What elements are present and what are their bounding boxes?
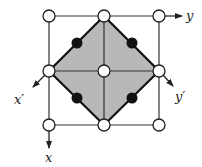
y-axis-label: y	[185, 8, 194, 23]
x-axis-label: x	[45, 150, 53, 165]
diagram-canvas: y x x′ y′	[0, 0, 202, 167]
filled-site	[72, 93, 83, 104]
open-site	[153, 10, 165, 22]
x-prime-axis-arrow	[33, 75, 45, 87]
open-site	[153, 65, 165, 77]
y-prime-axis-arrow	[163, 75, 173, 86]
open-site	[98, 65, 110, 77]
filled-site	[127, 93, 138, 104]
open-site	[153, 119, 165, 131]
filled-site	[72, 38, 83, 49]
x-prime-axis-label: x′	[14, 92, 24, 107]
open-site	[43, 65, 55, 77]
open-site	[98, 119, 110, 131]
y-prime-axis-label: y′	[174, 89, 185, 104]
lattice-diagram: y x x′ y′	[0, 0, 202, 167]
open-site	[43, 119, 55, 131]
open-site	[43, 10, 55, 22]
filled-site	[127, 38, 138, 49]
open-site	[98, 10, 110, 22]
